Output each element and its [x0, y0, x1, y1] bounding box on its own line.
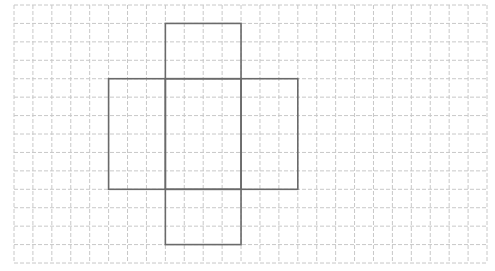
grid-diagram: [0, 0, 495, 271]
dashed-grid: [14, 5, 487, 263]
